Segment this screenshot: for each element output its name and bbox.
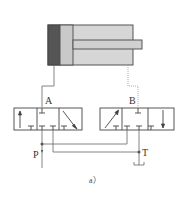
junction-t	[138, 151, 141, 154]
pipework	[42, 130, 144, 168]
left-valve	[14, 108, 82, 130]
port-label-b: B	[129, 95, 136, 106]
figure-caption: a）	[89, 176, 101, 185]
piston	[60, 25, 73, 65]
cylinder-cap	[48, 25, 60, 65]
p-arrow-icon	[41, 150, 43, 153]
right-valve	[100, 108, 174, 130]
junction-p	[41, 143, 44, 146]
port-label-t: T	[142, 147, 148, 158]
piston-rod	[73, 40, 142, 49]
port-label-p: P	[33, 149, 39, 160]
port-label-a: A	[45, 95, 53, 106]
hydraulic-diagram: A B	[0, 0, 181, 197]
cylinder	[48, 25, 142, 65]
